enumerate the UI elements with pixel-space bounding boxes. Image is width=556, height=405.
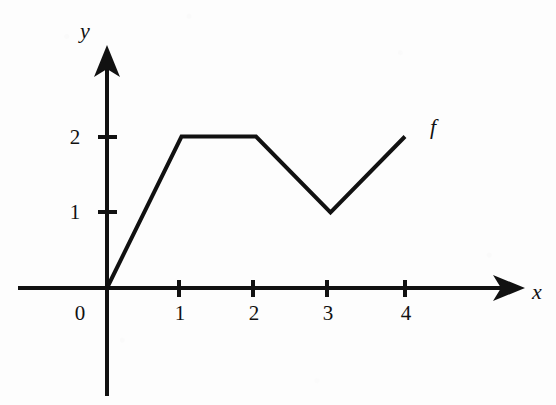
function-graph-figure: y x f 0 2 1 1 2 3 4 <box>0 0 556 405</box>
origin-label: 0 <box>75 303 86 324</box>
function-curve-f <box>107 137 405 289</box>
x-tick-label-2: 2 <box>249 303 260 324</box>
x-tick-label-3: 3 <box>323 303 334 324</box>
y-axis-label: y <box>80 20 90 42</box>
curve-label-f: f <box>430 116 436 138</box>
y-tick-label-2: 2 <box>70 127 81 148</box>
x-axis-label: x <box>532 281 542 303</box>
plot-svg <box>0 0 556 405</box>
x-tick-label-4: 4 <box>401 303 412 324</box>
y-tick-label-1: 1 <box>70 202 81 223</box>
x-tick-label-1: 1 <box>175 303 186 324</box>
